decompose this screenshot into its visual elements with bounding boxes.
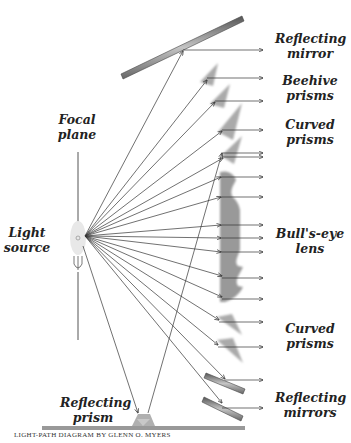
light-ray [85, 236, 221, 252]
light-ray [85, 236, 225, 379]
credit-line: LIGHT-PATH DIAGRAM BY GLENN O. MYERS [14, 431, 171, 439]
label-beehive-prisms: Beehive prisms [275, 73, 345, 103]
light-ray [85, 236, 222, 403]
diagram-canvas [0, 0, 351, 443]
curved-prism-icon [221, 136, 242, 164]
label-bullseye-lens: Bull's-eye lens [275, 226, 345, 256]
bullseye-lens-icon [220, 171, 243, 302]
reflecting-mirror-icon [121, 16, 244, 79]
light-ray [85, 131, 222, 236]
curved-prism-icon [218, 103, 242, 140]
light-ray [85, 236, 222, 276]
light-ray [85, 80, 207, 236]
label-curved-prisms-top: Curved prisms [275, 117, 345, 147]
label-reflecting-mirror: Reflecting mirror [275, 31, 345, 61]
label-focal-plane: Focal plane [52, 112, 102, 142]
light-ray [85, 236, 221, 238]
light-ray [85, 236, 219, 320]
curved-prism-icon [217, 314, 242, 335]
beehive-prism-icon [200, 63, 218, 86]
label-curved-prisms-bottom: Curved prisms [275, 321, 345, 351]
light-ray [83, 246, 138, 413]
light-ray [85, 102, 215, 236]
light-path-diagram: Reflecting mirror Beehive prisms Curved … [0, 0, 351, 443]
light-ray [85, 236, 218, 345]
light-ray [85, 236, 222, 297]
label-light-source: Light source [2, 225, 52, 255]
light-source-icon [70, 221, 86, 270]
label-reflecting-prism: Reflecting prism [60, 395, 126, 425]
label-reflecting-mirrors: Reflecting mirrors [275, 390, 345, 420]
light-ray [148, 153, 222, 413]
base-bar [42, 426, 245, 430]
curved-prism-icon [217, 338, 243, 363]
